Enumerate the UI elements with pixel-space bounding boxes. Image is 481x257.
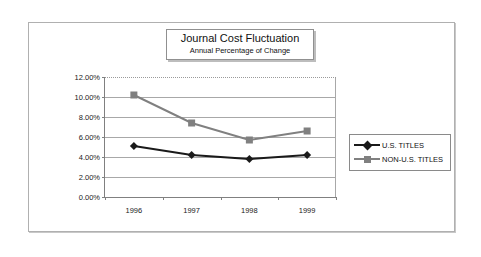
series-line [134, 146, 307, 159]
y-axis-tick-label: 6.00% [79, 133, 100, 142]
y-axis-tick-label: 10.00% [75, 93, 100, 102]
x-axis-tick [163, 197, 164, 200]
x-axis-tick-label: 1997 [183, 206, 200, 215]
chart-container: Journal Cost Fluctuation Annual Percenta… [28, 22, 455, 232]
x-axis-tick-label: 1999 [299, 206, 316, 215]
legend-key-non-us-titles [354, 153, 380, 165]
series-plot [105, 77, 336, 197]
x-axis-tick-label: 1998 [241, 206, 258, 215]
square-marker-icon [364, 156, 371, 163]
plot-area: 0.00%2.00%4.00%6.00%8.00%10.00%12.00% 19… [104, 77, 336, 198]
chart-title: Journal Cost Fluctuation [171, 32, 309, 45]
legend-item-non-us-titles: NON-U.S. TITLES [354, 152, 446, 166]
square-marker-icon [130, 92, 137, 99]
x-axis-tick [221, 197, 222, 200]
y-axis-tick-label: 8.00% [79, 113, 100, 122]
chart-title-box: Journal Cost Fluctuation Annual Percenta… [166, 29, 314, 60]
y-axis-tick-label: 12.00% [75, 73, 100, 82]
square-marker-icon [188, 120, 195, 127]
y-axis-tick-label: 2.00% [79, 173, 100, 182]
legend-key-us-titles [354, 139, 380, 151]
chart-subtitle: Annual Percentage of Change [171, 45, 309, 56]
square-marker-icon [304, 128, 311, 135]
diamond-marker-icon [130, 142, 138, 150]
legend-item-us-titles: U.S. TITLES [354, 138, 446, 152]
legend-label-us-titles: U.S. TITLES [382, 141, 424, 150]
y-axis-tick-label: 0.00% [79, 193, 100, 202]
x-axis-tick [278, 197, 279, 200]
x-axis-tick-label: 1996 [126, 206, 143, 215]
x-axis-tick [105, 197, 106, 200]
legend-label-non-us-titles: NON-U.S. TITLES [382, 155, 443, 164]
diamond-marker-icon [188, 151, 196, 159]
square-marker-icon [246, 137, 253, 144]
chart-legend: U.S. TITLES NON-U.S. TITLES [349, 134, 451, 171]
y-axis-tick-label: 4.00% [79, 153, 100, 162]
series-line [134, 95, 307, 140]
diamond-marker-icon [245, 155, 253, 163]
diamond-marker-icon [362, 140, 372, 150]
diamond-marker-icon [303, 151, 311, 159]
x-axis-tick [336, 197, 337, 200]
